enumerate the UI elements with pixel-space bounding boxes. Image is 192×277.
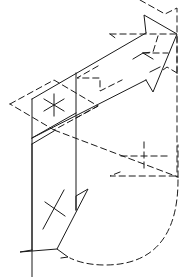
asterisk-mark bbox=[44, 94, 64, 116]
right-notched-face bbox=[110, 0, 178, 177]
cross-mark-lower bbox=[43, 190, 65, 229]
lower-arrow-shaft bbox=[20, 131, 88, 258]
upper-arrow-shaft bbox=[32, 33, 146, 277]
isometric-arrow-drawing bbox=[0, 0, 192, 277]
hidden-upper-edges bbox=[77, 34, 177, 91]
cross-mark-right bbox=[121, 142, 167, 170]
left-rhombus-face bbox=[10, 80, 178, 177]
diagram-canvas bbox=[0, 0, 192, 277]
asterisk-mark-head bbox=[133, 53, 153, 59]
